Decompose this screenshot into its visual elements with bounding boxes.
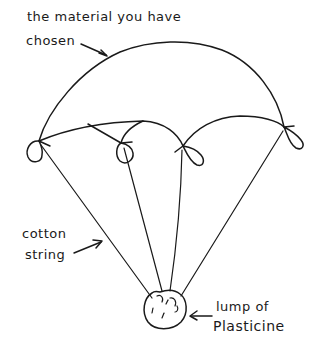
canopy-outer-edge	[39, 42, 284, 141]
string-4	[181, 131, 283, 296]
string-2	[124, 148, 162, 291]
label-string-line2: string	[25, 245, 65, 265]
loop-1	[27, 141, 50, 162]
canopy-panel-seam-2	[121, 121, 143, 143]
label-weight-line1: lump of	[216, 297, 269, 317]
canopy-inner-edge-left	[39, 121, 183, 146]
label-canopy-line1: the material you have	[27, 7, 181, 27]
label-string-line1: cotton	[22, 224, 67, 244]
loop-3	[175, 146, 203, 165]
string-pointer-arrow	[74, 240, 102, 253]
string-1	[41, 145, 152, 298]
label-weight-line2: Plasticine	[213, 316, 285, 336]
canopy-inner-edge-right	[183, 116, 284, 146]
string-3	[170, 150, 182, 291]
label-canopy-line2: chosen	[26, 31, 75, 51]
canopy-pointer-arrow	[81, 44, 107, 56]
plasticine-pointer-arrow	[190, 311, 212, 320]
loop-4	[284, 126, 303, 149]
canopy-panel-seam-1	[88, 124, 121, 143]
